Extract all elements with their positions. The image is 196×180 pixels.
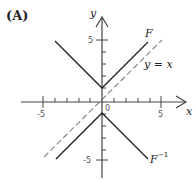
graph: -5 5 5 -5 0 y x F y = x F −1 (0, 0, 196, 180)
x-tick-label-5: 5 (158, 110, 163, 119)
identity-line-label: y = x (143, 58, 173, 71)
curve-f-label: F (144, 27, 153, 40)
y-tick-label-5: 5 (88, 36, 93, 45)
x-tick-label-neg5: -5 (37, 110, 45, 119)
curve-f-inverse-base: F (149, 153, 158, 166)
y-tick-label-neg5: -5 (83, 156, 91, 165)
curve-f-inverse-label: F (149, 153, 158, 166)
curve-f-inverse-superscript: −1 (158, 151, 168, 159)
x-axis-label: x (186, 105, 193, 118)
y-axis-label: y (89, 7, 97, 20)
origin-label: 0 (105, 104, 110, 113)
